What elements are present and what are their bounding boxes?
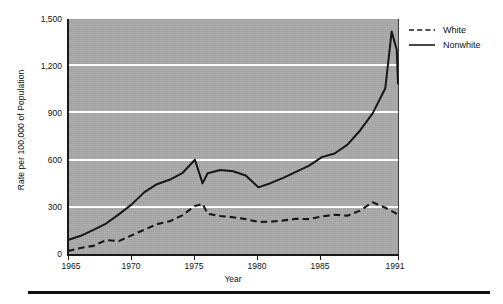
nonwhite-series-line xyxy=(68,32,398,240)
dashed-line-icon xyxy=(409,25,435,35)
x-tick-mark xyxy=(257,255,258,260)
solid-line-icon xyxy=(409,40,435,50)
y-tick-label: 1,500 xyxy=(22,15,62,24)
x-axis-title: Year xyxy=(68,274,398,284)
legend-item-nonwhite: Nonwhite xyxy=(409,37,501,52)
x-tick-label: 1985 xyxy=(311,261,330,271)
x-tick-label: 1991 xyxy=(386,261,405,271)
x-tick-label: 1975 xyxy=(185,261,204,271)
y-axis-line xyxy=(67,19,69,255)
x-tick-mark xyxy=(194,255,195,260)
y-tick-label: 900 xyxy=(22,109,62,118)
y-tick-label: 600 xyxy=(22,156,62,165)
x-tick-mark xyxy=(320,255,321,260)
x-tick-label: 1965 xyxy=(62,261,81,271)
chart-legend: White Nonwhite xyxy=(409,22,501,52)
x-tick-label: 1980 xyxy=(248,261,267,271)
y-tick-label: 300 xyxy=(22,203,62,212)
x-tick-mark xyxy=(131,255,132,260)
legend-label-white: White xyxy=(443,25,466,35)
y-tick-label: 0 xyxy=(22,250,62,259)
legend-label-nonwhite: Nonwhite xyxy=(443,40,481,50)
y-axis-tick-labels: 1,500 1,200 900 600 300 0 xyxy=(20,0,62,304)
y-tick-label: 1,200 xyxy=(22,62,62,71)
x-tick-label: 1970 xyxy=(122,261,141,271)
figure-bottom-rule xyxy=(28,291,490,294)
x-tick-mark xyxy=(398,255,399,260)
x-axis-line xyxy=(67,254,399,256)
x-tick-mark xyxy=(68,255,69,260)
chart-figure: Rate per 100,000 of Population 1,500 1,2… xyxy=(0,0,503,304)
series-lines xyxy=(68,19,398,255)
legend-item-white: White xyxy=(409,22,501,37)
white-series-line xyxy=(68,202,398,251)
plot-area xyxy=(68,19,399,255)
